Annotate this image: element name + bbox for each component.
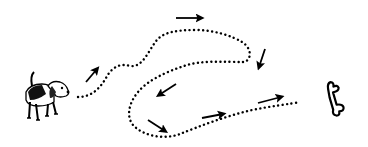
- arrow-right-icon: [202, 114, 223, 118]
- arrow-up-right-icon: [86, 69, 97, 82]
- illustration-canvas: [0, 0, 368, 147]
- arrow-right-icon: [258, 97, 281, 103]
- direction-arrows: [86, 18, 281, 131]
- arrow-down-icon: [259, 49, 265, 67]
- arrow-down-left-icon: [159, 84, 176, 95]
- dotted-trail: [78, 30, 300, 137]
- arrow-down-right-icon: [148, 120, 165, 131]
- dog-icon: [26, 72, 69, 120]
- bone-icon: [316, 81, 353, 117]
- trail-illustration: [0, 0, 368, 147]
